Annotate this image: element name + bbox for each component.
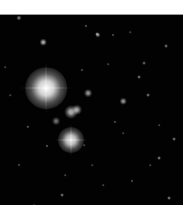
star [172,137,176,141]
star [40,39,47,46]
star [60,193,64,197]
star [84,89,92,97]
star [137,75,141,79]
star [91,164,94,167]
diffraction-spike [46,62,47,113]
star [9,94,12,97]
star [122,132,125,135]
star [26,125,29,128]
star [95,32,99,36]
star [84,24,87,27]
star [129,31,132,34]
star [64,174,67,177]
star [157,156,161,160]
star [120,98,127,105]
star [149,164,152,167]
star-field-image [0,14,183,205]
star [164,44,168,48]
star [107,63,110,66]
star [167,196,171,200]
star [83,144,86,147]
star [111,33,114,36]
star [72,105,82,115]
star [52,117,60,125]
diffraction-spike [71,124,72,156]
star [130,179,133,182]
star [142,61,146,65]
star [45,144,48,147]
star [17,163,20,166]
star [80,68,83,71]
star [113,120,116,123]
star [4,66,7,69]
star [16,15,21,20]
star [33,204,36,205]
star [158,124,161,127]
star [146,93,150,97]
star [102,184,105,187]
